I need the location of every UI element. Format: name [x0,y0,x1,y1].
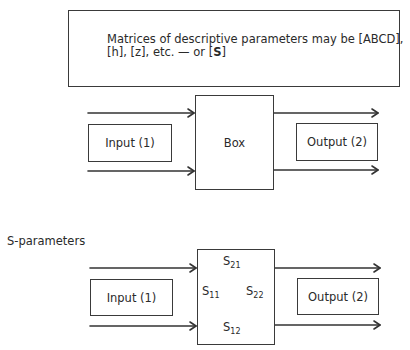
note-line-2-suffix: ] [221,45,226,59]
note-box: Matrices of descriptive parameters may b… [68,10,400,87]
box-label: Box [224,136,245,150]
output-box-top: Output (2) [296,123,378,161]
param-s21: S21 [223,254,241,270]
param-s11: S11 [202,284,220,300]
center-box-top: Box [195,95,274,190]
param-s22: S22 [246,284,264,300]
output-box-bottom: Output (2) [297,278,379,315]
input-box-top: Input (1) [88,124,172,162]
param-s11-sub: 11 [209,291,219,300]
input-box-bottom: Input (1) [90,279,173,316]
note-line-2: [h], [z], etc. — or [S] [107,46,404,59]
param-s22-sub: 22 [253,291,263,300]
note-line-2-prefix: [h], [z], etc. — or [ [107,45,213,59]
section-title: S-parameters [7,234,85,248]
output-label-top: Output (2) [307,135,367,149]
note-text: Matrices of descriptive parameters may b… [107,33,404,59]
output-label-bottom: Output (2) [308,290,368,304]
input-label-bottom: Input (1) [107,291,157,305]
param-s21-sub: 21 [230,261,240,270]
param-s12-sub: 12 [230,327,240,336]
param-s12: S12 [223,320,241,336]
input-label-top: Input (1) [105,136,155,150]
